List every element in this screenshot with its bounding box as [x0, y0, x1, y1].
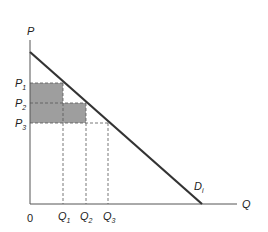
demand-curve — [30, 52, 202, 204]
q2-label: Q2 — [80, 210, 93, 224]
demand-chart: P Q 0 P1 P2 P3 Q1 Q2 Q3 Di — [0, 0, 268, 232]
origin-label: 0 — [27, 212, 33, 224]
p3-label: P3 — [15, 117, 26, 131]
x-axis-label: Q — [242, 198, 251, 210]
p2-label: P2 — [15, 97, 26, 111]
q3-label: Q3 — [103, 210, 116, 224]
q1-label: Q1 — [58, 210, 71, 224]
y-axis-label: P — [27, 25, 35, 37]
p1-label: P1 — [15, 77, 26, 91]
demand-curve-label: Di — [194, 180, 204, 194]
shaded-region-p1-p2 — [30, 83, 63, 103]
shaded-region-p2-p3 — [30, 103, 86, 123]
